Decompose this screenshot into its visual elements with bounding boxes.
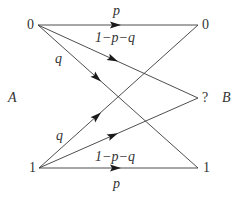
input-side-label: A: [8, 91, 17, 105]
input-node-1: 1: [29, 161, 36, 175]
edge-label-erasure-bottom: 1−p−q: [95, 150, 135, 164]
edge-label-q-top: q: [55, 52, 62, 66]
edge-label-p-bottom: p: [113, 177, 120, 191]
output-side-label: B: [222, 91, 231, 105]
edge-label-p-top: p: [113, 4, 120, 18]
output-node-erasure: ?: [202, 91, 208, 105]
input-node-0: 0: [27, 18, 34, 32]
output-node-1: 1: [203, 161, 210, 175]
output-node-0: 0: [202, 18, 209, 32]
edge-label-erasure-top: 1−p−q: [95, 31, 135, 45]
edge-label-q-bottom: q: [56, 129, 63, 143]
arrowhead-icon: [107, 54, 120, 65]
arrowhead-icon: [107, 130, 120, 141]
